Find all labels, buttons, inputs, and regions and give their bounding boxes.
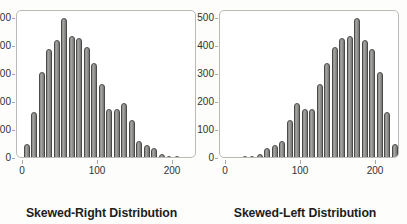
histogram-bar (362, 40, 368, 158)
y-tick-mark (215, 158, 218, 159)
y-tick-label: 200 (0, 97, 11, 107)
y-tick-mark (215, 46, 218, 47)
histogram-bar (159, 154, 165, 158)
y-tick-mark (12, 130, 15, 131)
y-tick-label: 300 (180, 69, 214, 79)
histogram-bar (69, 36, 75, 158)
histogram-bar (91, 63, 97, 158)
y-tick-label: 300 (0, 69, 11, 79)
histogram-bar (76, 38, 82, 158)
y-tick-label: 100 (180, 125, 214, 135)
x-tick-mark (375, 160, 376, 164)
x-tick-mark (300, 160, 301, 164)
y-tick-mark (215, 130, 218, 131)
y-tick-label: 400 (180, 41, 214, 51)
histogram-bar (234, 157, 240, 158)
histogram-bar (39, 72, 45, 158)
histogram-bar (272, 145, 278, 158)
chart-panel-skewed-right: Frequency 0100200300400500 0100200 Skewe… (0, 0, 203, 224)
histogram-bar (106, 109, 112, 158)
histogram-bars (17, 11, 195, 157)
histogram-bar (257, 154, 263, 158)
histogram-bar (242, 156, 248, 158)
histogram-bar (339, 38, 345, 158)
y-tick-mark (215, 18, 218, 19)
x-tick-label: 0 (7, 166, 37, 176)
y-tick-mark (12, 102, 15, 103)
chart-title: Skewed-Right Distribution (0, 206, 203, 220)
histogram-bar (309, 109, 315, 158)
histogram-bar (377, 72, 383, 158)
y-tick-mark (12, 46, 15, 47)
histogram-bar (287, 120, 293, 158)
histogram-bar (392, 144, 398, 158)
histogram-bar (302, 109, 308, 158)
x-tick-mark (225, 160, 226, 164)
histogram-bar (249, 156, 255, 158)
y-tick-label: 500 (0, 13, 11, 23)
chart-panel-skewed-left: Frequency 0100200300400500 0100200 Skewe… (203, 0, 407, 224)
histogram-bar (166, 156, 172, 158)
histogram-bar (54, 40, 60, 158)
histogram-bar (61, 18, 67, 158)
x-tick-mark (172, 160, 173, 164)
histogram-bar (347, 36, 353, 158)
histogram-bar (114, 109, 120, 158)
histogram-bar (121, 103, 127, 158)
histogram-bar (384, 112, 390, 158)
histogram-bar (129, 120, 135, 158)
x-tick-label: 200 (157, 166, 187, 176)
histogram-bar (46, 49, 52, 158)
x-tick-mark (22, 160, 23, 164)
x-tick-mark (97, 160, 98, 164)
x-tick-label: 100 (82, 166, 112, 176)
y-tick-mark (215, 102, 218, 103)
figure-root: Frequency 0100200300400500 0100200 Skewe… (0, 0, 407, 224)
histogram-bar (151, 148, 157, 158)
histogram-bars (220, 11, 398, 157)
histogram-bar (354, 18, 360, 158)
y-tick-label: 0 (0, 153, 11, 163)
histogram-bar (264, 148, 270, 158)
plot-area (219, 10, 399, 158)
histogram-bar (279, 141, 285, 158)
y-tick-label: 100 (0, 125, 11, 135)
y-tick-mark (12, 158, 15, 159)
plot-area (16, 10, 196, 158)
histogram-bar (324, 63, 330, 158)
y-tick-label: 400 (0, 41, 11, 51)
histogram-bar (369, 49, 375, 158)
histogram-bar (31, 112, 37, 158)
y-tick-mark (12, 18, 15, 19)
chart-title: Skewed-Left Distribution (203, 206, 407, 220)
histogram-bar (136, 141, 142, 158)
histogram-bar (227, 157, 233, 158)
histogram-bar (317, 84, 323, 158)
y-tick-mark (215, 74, 218, 75)
histogram-bar (332, 47, 338, 158)
x-tick-label: 0 (210, 166, 240, 176)
histogram-bar (294, 103, 300, 158)
x-tick-label: 200 (360, 166, 390, 176)
y-tick-label: 0 (180, 153, 214, 163)
histogram-bar (84, 47, 90, 158)
y-tick-label: 200 (180, 97, 214, 107)
histogram-bar (174, 156, 180, 158)
x-tick-label: 100 (285, 166, 315, 176)
histogram-bar (99, 84, 105, 158)
histogram-bar (144, 145, 150, 158)
y-tick-mark (12, 74, 15, 75)
y-tick-label: 500 (180, 13, 214, 23)
histogram-bar (24, 144, 30, 158)
